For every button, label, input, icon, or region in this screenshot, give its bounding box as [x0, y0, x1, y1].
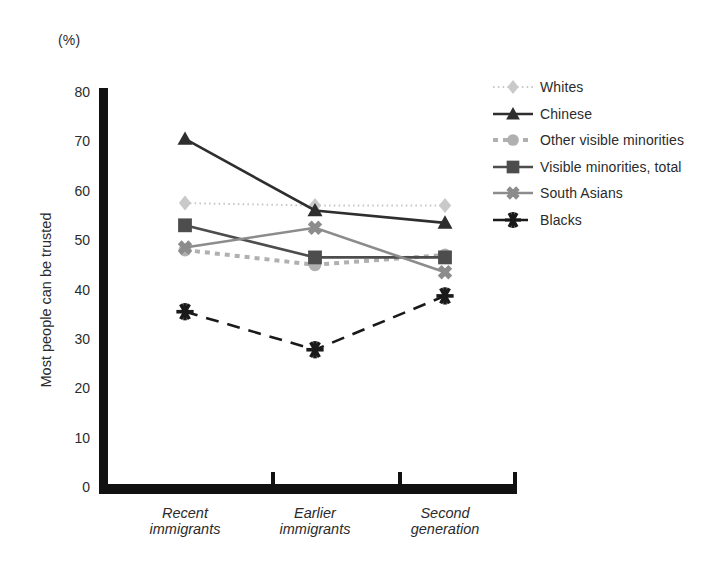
- data-point-square: [178, 218, 192, 232]
- data-point-asterisk: [306, 341, 323, 358]
- data-point-asterisk: [436, 287, 453, 304]
- legend-marker-diamond-icon: [492, 76, 534, 98]
- data-point-asterisk: [505, 212, 521, 228]
- legend-item-chinese[interactable]: Chinese: [492, 101, 716, 128]
- series-blacks: [176, 287, 453, 358]
- data-point-circle: [507, 134, 519, 146]
- data-series-layer: [176, 131, 453, 358]
- data-point-square: [308, 251, 322, 265]
- legend-label: Chinese: [540, 106, 592, 122]
- legend-marker-square-icon: [492, 156, 534, 178]
- data-point-diamond: [179, 196, 191, 211]
- legend-marker-triangle-icon: [492, 103, 534, 125]
- legend-label: Whites: [540, 79, 583, 95]
- legend-marker-cross-x-icon: [492, 182, 534, 204]
- legend-label: Blacks: [540, 212, 582, 228]
- legend-item-whites[interactable]: Whites: [492, 74, 716, 101]
- legend-label: Visible minorities, total: [540, 159, 682, 175]
- legend-marker-circle-icon: [492, 129, 534, 151]
- legend-item-blacks[interactable]: Blacks: [492, 207, 716, 234]
- axis-lines: [99, 88, 517, 494]
- data-point-diamond: [507, 80, 518, 94]
- legend-item-other-visible-minorities[interactable]: Other visible minorities: [492, 127, 716, 154]
- legend-item-visible-minorities-total[interactable]: Visible minorities, total: [492, 154, 716, 181]
- series-chinese: [178, 131, 453, 228]
- legend-label: South Asians: [540, 185, 623, 201]
- chart-container: (%) Most people can be trusted 807060504…: [0, 0, 716, 581]
- legend-label: Other visible minorities: [540, 132, 684, 148]
- data-point-diamond: [439, 198, 451, 213]
- data-point-square: [507, 160, 520, 173]
- data-point-cross-x: [438, 265, 452, 279]
- data-point-triangle: [178, 131, 193, 144]
- data-point-asterisk: [176, 303, 193, 320]
- legend-item-south-asians[interactable]: South Asians: [492, 180, 716, 207]
- legend-marker-asterisk-icon: [492, 209, 534, 231]
- chart-legend: WhitesChineseOther visible minoritiesVis…: [492, 74, 716, 233]
- data-point-square: [438, 251, 452, 265]
